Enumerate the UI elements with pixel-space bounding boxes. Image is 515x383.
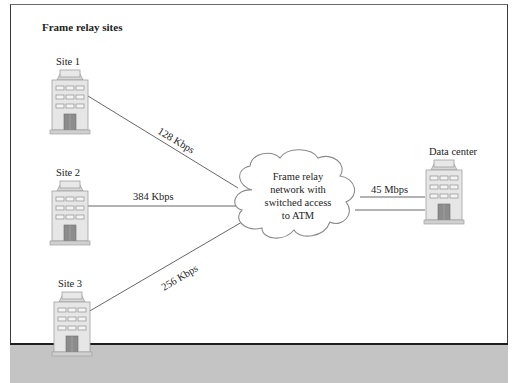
site-2-label: Site 2 (56, 167, 80, 178)
frame-relay-cloud: Frame relay network with switched access… (235, 150, 355, 238)
site-3: Site 3 (52, 278, 92, 356)
link-label-site-1: 128 Kbps (156, 125, 196, 155)
link-site-1 (88, 96, 238, 188)
building-icon (424, 160, 464, 224)
building-icon (50, 70, 90, 134)
link-label-data-center: 45 Mbps (371, 184, 408, 195)
diagram-title: Frame relay sites (42, 21, 123, 33)
cloud-line-1: Frame relay (273, 171, 324, 182)
cloud-line-2: network with (270, 184, 326, 195)
building-icon (50, 181, 90, 245)
building-icon (52, 292, 92, 356)
site-1-label: Site 1 (56, 56, 80, 67)
data-center-label: Data center (429, 146, 478, 157)
cloud-line-3: switched access (265, 197, 332, 208)
data-center: Data center (424, 146, 478, 224)
cloud-line-4: to ATM (282, 210, 315, 221)
site-3-label: Site 3 (58, 278, 82, 289)
site-2: Site 2 (50, 167, 90, 245)
link-site-3 (88, 222, 242, 312)
link-label-site-2: 384 Kbps (133, 191, 174, 202)
site-1: Site 1 (50, 56, 90, 134)
